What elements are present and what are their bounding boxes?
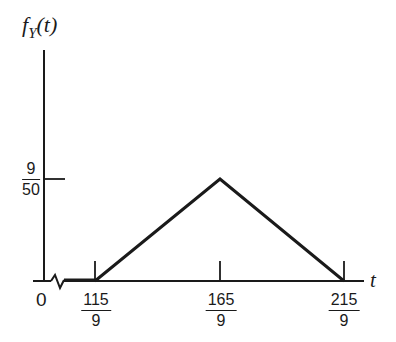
- axis-break-icon: [51, 275, 64, 288]
- y-label-arg: (t): [36, 12, 57, 37]
- x-tick-denominator: 9: [329, 311, 360, 330]
- y-axis-label: fY(t): [22, 12, 57, 42]
- x-tick-label-215-9: 215 9: [329, 292, 360, 329]
- y-tick-numerator: 9: [22, 161, 40, 180]
- x-tick-numerator: 165: [206, 292, 237, 311]
- x-tick-numerator: 115: [81, 292, 111, 311]
- y-tick-denominator: 50: [22, 180, 40, 199]
- x-tick-label-165-9: 165 9: [206, 292, 237, 329]
- y-tick-label-9-50: 9 50: [22, 161, 40, 198]
- x-tick-denominator: 9: [206, 311, 237, 330]
- x-tick-denominator: 9: [81, 311, 111, 330]
- x-tick-numerator: 215: [329, 292, 360, 311]
- origin-label: 0: [36, 290, 47, 309]
- x-tick-label-115-9: 115 9: [81, 292, 111, 329]
- x-axis-label: t: [370, 268, 376, 293]
